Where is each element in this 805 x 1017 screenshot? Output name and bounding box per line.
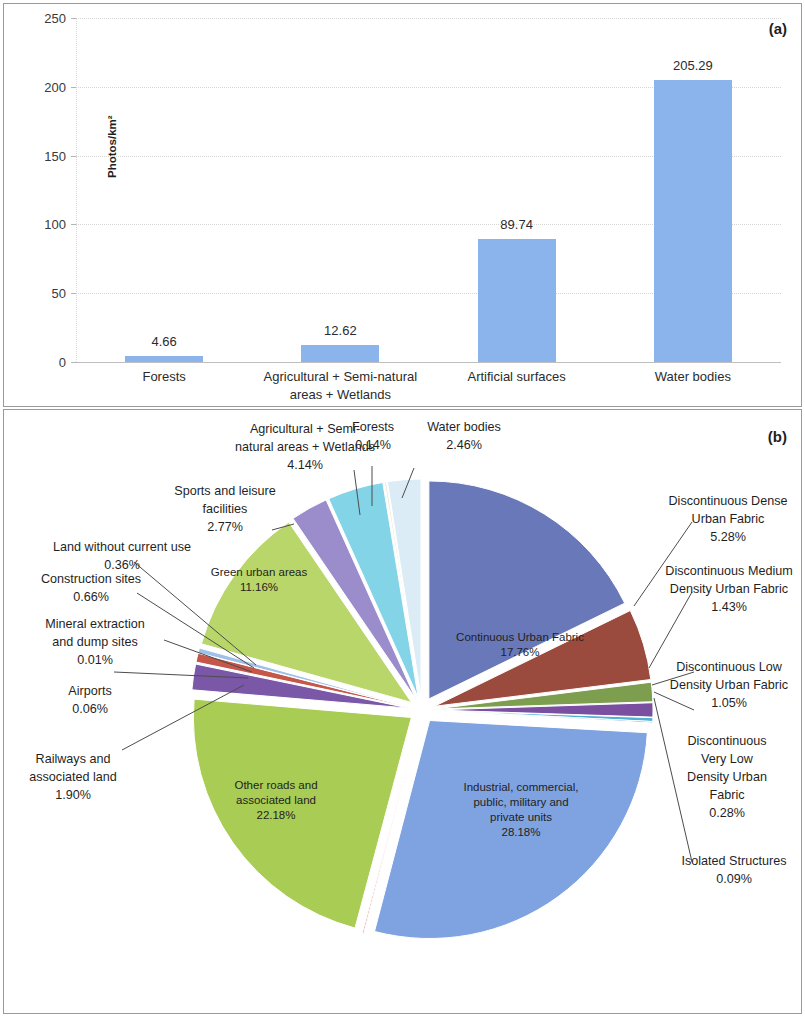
bar-category-label-0: Forests [64, 368, 264, 386]
pie-plot-area: Continuous Urban Fabric 17.76%Industrial… [4, 410, 803, 1015]
y-axis-title: Photos/km² [106, 115, 118, 178]
panel-a-bar-chart: (a) Photos/km² 250200150100500 4.6612.62… [3, 3, 802, 407]
bar-value-label-3: 205.29 [673, 58, 713, 73]
bar-category-label-2: Artificial surfaces [417, 368, 617, 386]
pie-outside-label-5: Construction sites 0.66% [22, 570, 160, 606]
y-axis-line [76, 18, 77, 362]
bar-value-label-2: 89.74 [500, 217, 533, 232]
y-tick-label-200: 200 [26, 79, 66, 94]
y-tick-mark-250 [71, 18, 76, 19]
pie-outside-label-6: Mineral extraction and dump sites 0.01% [34, 615, 156, 669]
y-tick-mark-50 [71, 293, 76, 294]
pie-inside-label-1: Industrial, commercial, public, military… [463, 780, 578, 840]
y-tick-mark-150 [71, 156, 76, 157]
pie-outside-label-1: Forests 0.14% [337, 418, 409, 454]
y-tick-label-100: 100 [26, 217, 66, 232]
pie-outside-label-2: Water bodies 2.46% [410, 418, 518, 454]
pie-outside-label-13: Discontinuous Very Low Density Urban Fab… [672, 732, 782, 822]
pie-inside-label-0: Continuous Urban Fabric 17.76% [456, 630, 584, 660]
bar-value-label-1: 12.62 [324, 323, 357, 338]
pie-outside-label-7: Airports 0.06% [44, 682, 136, 718]
y-tick-mark-200 [71, 87, 76, 88]
pie-outside-label-4: Land without current use 0.36% [27, 538, 217, 574]
bar-value-label-0: 4.66 [151, 334, 176, 349]
bar-0 [125, 356, 203, 362]
gridline-250 [76, 18, 781, 19]
y-tick-mark-100 [71, 224, 76, 225]
y-tick-label-50: 50 [26, 286, 66, 301]
bar-plot-area: Photos/km² 250200150100500 4.6612.6289.7… [76, 18, 781, 362]
pie-inside-label-3: Green urban areas 11.16% [211, 565, 308, 595]
pie-outside-label-3: Sports and leisure facilities 2.77% [164, 482, 286, 536]
pie-outside-label-10: Discontinuous Dense Urban Fabric 5.28% [654, 492, 802, 546]
bar-3 [654, 80, 732, 362]
y-tick-label-150: 150 [26, 148, 66, 163]
pie-inside-label-2: Other roads and associated land 22.18% [234, 778, 317, 823]
y-tick-mark-0 [71, 362, 76, 363]
y-tick-label-0: 0 [26, 355, 66, 370]
bar-category-label-1: Agricultural + Semi-natural areas + Wetl… [240, 368, 440, 404]
pie-outside-label-8: Railways and associated land 1.90% [18, 750, 128, 804]
bar-1 [301, 345, 379, 362]
pie-outside-label-12: Discontinuous Low Density Urban Fabric 1… [656, 658, 802, 712]
pie-outside-label-11: Discontinuous Medium Density Urban Fabri… [654, 562, 804, 616]
panel-b-pie-chart: (b) Continuous Urban Fabric 17.76%Indust… [3, 409, 802, 1014]
bar-2 [478, 239, 556, 362]
bar-category-label-3: Water bodies [593, 368, 793, 386]
pie-outside-label-14: Isolated Structures 0.09% [666, 852, 802, 888]
gridline-0 [76, 362, 781, 363]
figure-root: (a) Photos/km² 250200150100500 4.6612.62… [0, 0, 805, 1017]
y-tick-label-250: 250 [26, 11, 66, 26]
